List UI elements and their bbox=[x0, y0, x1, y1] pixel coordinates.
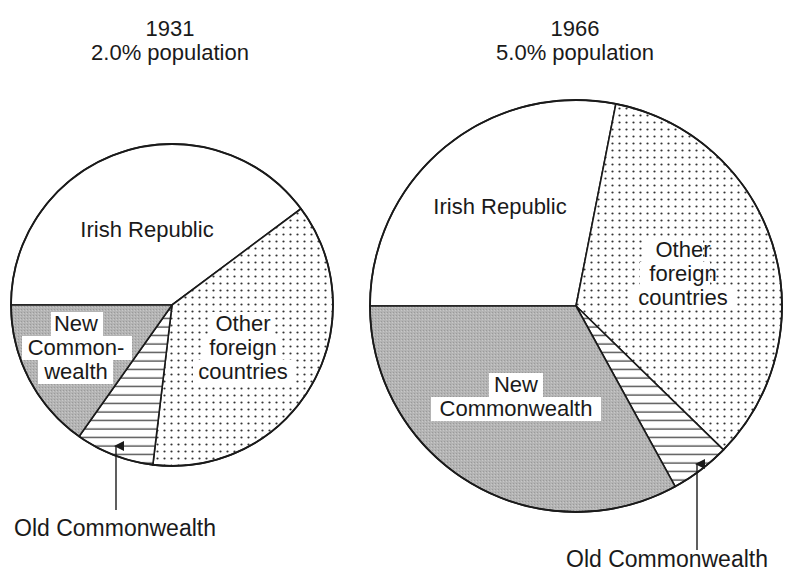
pie-1931: 1931 2.0% population Irish Republic New … bbox=[11, 16, 333, 541]
new-commonwealth-line-1: New bbox=[54, 311, 98, 336]
pie-charts: 1931 2.0% population Irish Republic New … bbox=[0, 0, 786, 580]
pie-1966-subtitle: 5.0% population bbox=[496, 40, 654, 65]
pie-1931-label-old-commonwealth: Old Commonwealth bbox=[14, 515, 216, 541]
pie-1931-title: 1931 bbox=[146, 16, 195, 41]
new-commonwealth-line-3: wealth bbox=[43, 359, 108, 384]
pie-1931-label-irish-republic: Irish Republic bbox=[80, 217, 213, 242]
pie-1966: 1966 5.0% population Irish Republic Othe… bbox=[370, 16, 782, 572]
other-foreign-line-3: countries bbox=[638, 285, 727, 310]
new-commonwealth-line-2: Commonwealth bbox=[440, 396, 593, 421]
pie-1966-label-old-commonwealth: Old Commonwealth bbox=[566, 546, 768, 572]
other-foreign-line-1: Other bbox=[655, 237, 710, 262]
other-foreign-line-3: countries bbox=[198, 359, 287, 384]
other-foreign-line-2: foreign bbox=[209, 335, 276, 360]
pie-1966-label-irish-republic: Irish Republic bbox=[433, 194, 566, 219]
pie-1966-title: 1966 bbox=[551, 16, 600, 41]
other-foreign-line-1: Other bbox=[215, 311, 270, 336]
pie-1931-slices bbox=[11, 144, 333, 466]
pie-1931-subtitle: 2.0% population bbox=[91, 40, 249, 65]
other-foreign-line-2: foreign bbox=[649, 261, 716, 286]
new-commonwealth-line-2: Common- bbox=[28, 335, 125, 360]
new-commonwealth-line-1: New bbox=[494, 372, 538, 397]
